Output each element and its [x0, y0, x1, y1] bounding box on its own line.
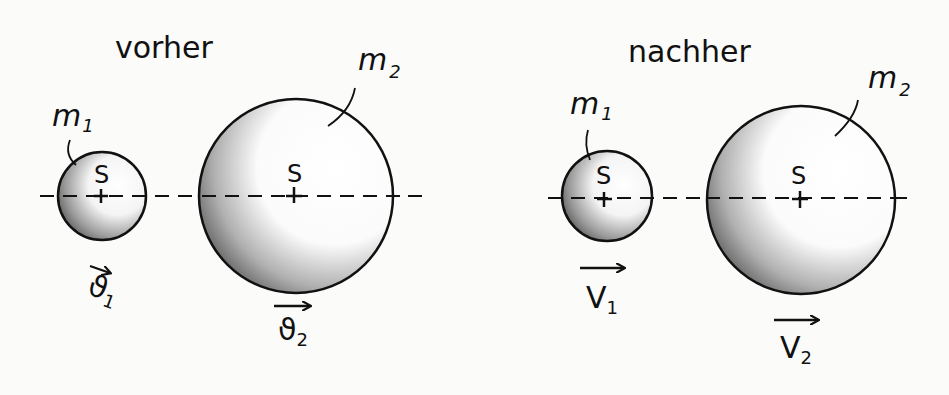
center-label: S [287, 160, 302, 188]
body-m2-after: S m2 V2 [706, 60, 911, 368]
velocity-label-v1: V1 [586, 280, 618, 318]
body-m1-after: S m1 V1 [548, 86, 666, 318]
panel-title-after: nachher [628, 34, 751, 69]
panel-before: vorher S m1 ϑ1 S m2 ϑ2 [40, 30, 422, 350]
body-m2-before: S m2 ϑ2 [199, 42, 422, 350]
mass-label-m1: m1 [52, 98, 94, 136]
center-label: S [596, 162, 611, 190]
mass-label-m1: m1 [570, 86, 613, 124]
panel-after: nachher S m1 V1 S m2 V2 [548, 34, 911, 368]
mass-label-m2: m2 [358, 42, 401, 82]
velocity-label-v2: V2 [780, 330, 812, 368]
mass-label-m2: m2 [868, 60, 911, 100]
center-label: S [791, 162, 806, 190]
velocity-label-v1: ϑ1 [83, 267, 124, 313]
panel-title-before: vorher [115, 30, 213, 65]
body-m1-before: S m1 ϑ1 [40, 98, 160, 313]
velocity-label-v2: ϑ2 [278, 312, 308, 350]
collision-diagram: vorher S m1 ϑ1 S m2 ϑ2 nachher [0, 0, 949, 395]
center-label: S [94, 161, 109, 189]
